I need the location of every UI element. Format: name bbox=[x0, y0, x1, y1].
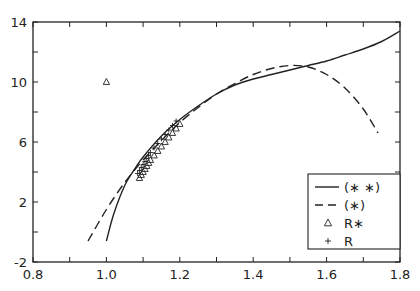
plus-marker bbox=[174, 119, 179, 124]
x-tick-label: 1.8 bbox=[390, 267, 411, 282]
x-tick-label: 1.4 bbox=[243, 267, 264, 282]
legend-label: (∗) bbox=[344, 198, 365, 213]
y-tick-label: 6 bbox=[19, 135, 27, 150]
y-tick-label: 14 bbox=[10, 15, 27, 30]
x-tick-label: 1.6 bbox=[316, 267, 337, 282]
legend-label: R∗ bbox=[344, 216, 364, 231]
x-tick-label: 1.2 bbox=[169, 267, 190, 282]
x-tick-label: 1.0 bbox=[96, 267, 117, 282]
y-tick-label: -2 bbox=[14, 255, 27, 270]
legend: (∗ ∗)(∗)R∗R bbox=[308, 174, 400, 249]
plus-marker bbox=[163, 132, 168, 137]
chart: 0.81.01.21.41.61.8-2261014 (∗ ∗)(∗)R∗R bbox=[0, 0, 420, 291]
legend-label: (∗ ∗) bbox=[344, 180, 380, 195]
triangle-marker bbox=[103, 79, 109, 85]
legend-label: R bbox=[344, 234, 353, 249]
y-tick-label: 2 bbox=[19, 195, 27, 210]
y-tick-label: 10 bbox=[10, 75, 27, 90]
